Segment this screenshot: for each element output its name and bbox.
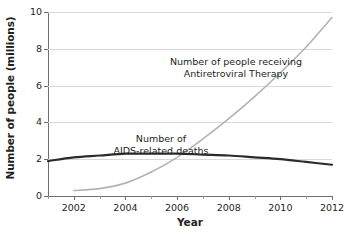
x-tick-minor — [100, 196, 101, 199]
series-line — [74, 18, 332, 191]
y-tick-label: 6 — [36, 81, 42, 91]
x-tick-label: 2004 — [113, 203, 137, 213]
chart-figure: Number of people (millions) 0246810 2002… — [0, 0, 352, 239]
x-axis-title: Year — [48, 216, 332, 228]
x-tick-mark — [74, 196, 75, 200]
y-tick-label: 0 — [36, 191, 42, 201]
x-tick-label: 2010 — [268, 203, 292, 213]
x-tick-minor — [48, 196, 49, 199]
series-group — [48, 12, 332, 196]
x-tick-mark — [177, 196, 178, 200]
plot-area: 0246810 200220042006200820102012 Number … — [48, 12, 332, 196]
annotation-aids-related-deaths: Number of AIDS-related deaths — [100, 133, 222, 157]
y-axis-title: Number of people (millions) — [2, 0, 18, 196]
x-axis-line — [48, 196, 332, 197]
x-tick-minor — [151, 196, 152, 199]
x-tick-mark — [125, 196, 126, 200]
y-tick-label: 4 — [36, 118, 42, 128]
y-tick-label: 2 — [36, 154, 42, 164]
x-tick-label: 2012 — [320, 203, 344, 213]
x-tick-mark — [280, 196, 281, 200]
x-tick-label: 2002 — [62, 203, 86, 213]
x-tick-mark — [332, 196, 333, 200]
x-tick-label: 2006 — [165, 203, 189, 213]
x-tick-minor — [255, 196, 256, 199]
x-tick-minor — [203, 196, 204, 199]
x-tick-mark — [229, 196, 230, 200]
x-tick-minor — [306, 196, 307, 199]
x-tick-label: 2008 — [217, 203, 241, 213]
annotation-antiretroviral-therapy: Number of people receiving Antiretrovira… — [148, 56, 324, 80]
y-tick-label: 8 — [36, 44, 42, 54]
y-tick-label: 10 — [30, 7, 42, 17]
